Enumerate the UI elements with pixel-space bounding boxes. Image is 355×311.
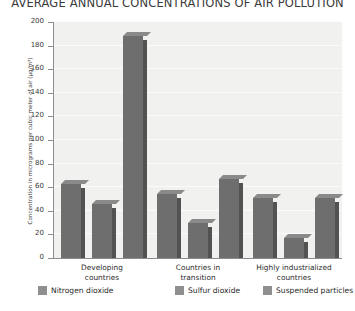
y-axis-tick: [48, 22, 53, 23]
bar-side-face: [112, 208, 116, 258]
plot-area: [54, 22, 342, 258]
category-label-line: Countries in: [150, 263, 246, 273]
bar-top-face: [284, 234, 312, 238]
y-axis-tick-label: 0: [4, 254, 44, 261]
x-axis-line: [53, 258, 342, 259]
category-label: Highly industrializedcountries: [246, 263, 342, 282]
bar-top-face: [219, 175, 247, 179]
bar-top-face: [157, 190, 185, 194]
gridline: [54, 92, 342, 93]
bar-side-face: [335, 202, 339, 258]
y-axis-tick-label: 160: [4, 65, 44, 72]
bar-side-face: [239, 183, 243, 258]
y-axis-tick-label: 80: [4, 160, 44, 167]
bar-top-face: [123, 32, 151, 36]
y-axis-line: [53, 22, 54, 259]
bar-side-face: [273, 202, 277, 258]
y-axis-tick: [48, 164, 53, 165]
chart-title: AVERAGE ANNUAL CONCENTRATIONS OF AIR POL…: [0, 0, 355, 10]
y-axis-tick: [48, 116, 53, 117]
bar-side-face: [143, 40, 147, 258]
y-axis-tick-label: 180: [4, 42, 44, 49]
y-axis-tick: [48, 46, 53, 47]
bar: [92, 204, 112, 258]
bar: [315, 198, 335, 258]
bar: [123, 36, 143, 258]
y-axis-tick: [48, 258, 53, 259]
bar: [284, 238, 304, 258]
gridline: [54, 21, 342, 22]
y-axis-tick-label: 40: [4, 207, 44, 214]
category-label-line: transition: [150, 273, 246, 283]
category-label-line: Highly industrialized: [246, 263, 342, 273]
y-axis-tick-label: 120: [4, 112, 44, 119]
y-axis-tick-label: 20: [4, 230, 44, 237]
bar-side-face: [177, 198, 181, 258]
y-axis-tick-label: 60: [4, 183, 44, 190]
y-axis-tick: [48, 69, 53, 70]
y-axis-tick: [48, 93, 53, 94]
legend-label: Suspended particles: [276, 286, 353, 295]
bar-side-face: [304, 242, 308, 258]
category-label: Developingcountries: [54, 263, 150, 282]
y-axis-tick: [48, 187, 53, 188]
y-axis-tick: [48, 211, 53, 212]
bar: [253, 198, 273, 258]
gridline: [54, 186, 342, 187]
bar: [157, 194, 177, 258]
gridline: [54, 45, 342, 46]
legend-label: Nitrogen dioxide: [51, 286, 114, 295]
gridline: [54, 115, 342, 116]
bar: [61, 184, 81, 258]
bar-top-face: [253, 194, 281, 198]
legend-item[interactable]: Suspended particles: [263, 286, 353, 295]
y-axis-tick-label: 100: [4, 136, 44, 143]
category-label: Countries intransition: [150, 263, 246, 282]
category-label-line: countries: [246, 273, 342, 283]
bar: [219, 179, 239, 258]
legend-swatch: [263, 286, 272, 295]
legend-label: Sulfur dioxide: [188, 286, 240, 295]
category-label-line: Developing: [54, 263, 150, 273]
bar: [188, 223, 208, 258]
bar-top-face: [92, 200, 120, 204]
legend-item[interactable]: Sulfur dioxide: [175, 286, 240, 295]
bar-top-face: [188, 219, 216, 223]
y-axis-tick-label: 140: [4, 89, 44, 96]
legend-swatch: [38, 286, 47, 295]
chart-legend: Nitrogen dioxideSulfur dioxideSuspended …: [0, 286, 355, 304]
legend-item[interactable]: Nitrogen dioxide: [38, 286, 114, 295]
gridline: [54, 163, 342, 164]
gridline: [54, 68, 342, 69]
y-axis-tick: [48, 234, 53, 235]
bar-top-face: [315, 194, 343, 198]
bar-side-face: [208, 227, 212, 258]
air-pollution-bar-chart: AVERAGE ANNUAL CONCENTRATIONS OF AIR POL…: [0, 0, 355, 311]
y-axis-tick: [48, 140, 53, 141]
gridline: [54, 139, 342, 140]
bar-side-face: [81, 188, 85, 258]
legend-swatch: [175, 286, 184, 295]
category-label-line: countries: [54, 273, 150, 283]
bar-top-face: [61, 180, 89, 184]
y-axis-tick-label: 200: [4, 18, 44, 25]
